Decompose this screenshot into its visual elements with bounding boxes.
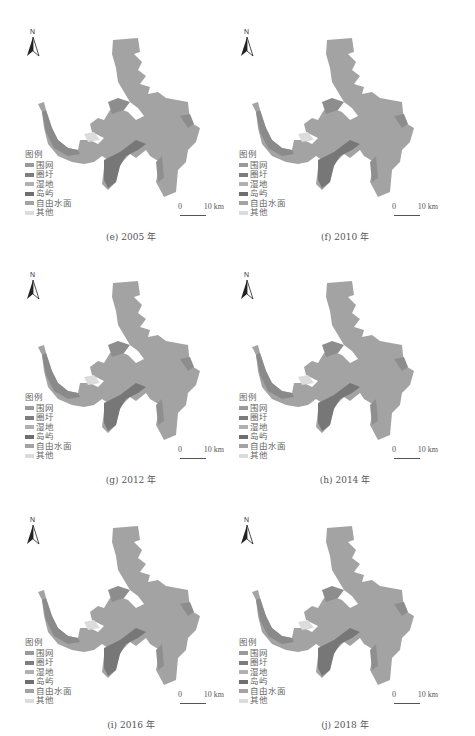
legend-label: 其他 [36,208,54,218]
panel-caption: (g) 2012 年 [20,473,242,486]
legend-swatch [239,435,248,439]
scale-bar: 0 10 km [392,202,452,216]
scale-line [394,215,420,216]
legend-item: 其他 [25,451,72,461]
north-label: N [30,271,35,278]
panel-caption: (f) 2010 年 [234,230,456,243]
legend-swatch [239,192,248,196]
scale-line [180,703,206,704]
legend-swatch [239,201,248,205]
legend-item: 其他 [25,696,72,706]
legend-swatch [25,651,34,655]
legend-swatch [25,182,34,186]
legend-swatch [25,173,34,177]
legend-title: 图例 [239,393,286,403]
north-label: N [244,516,249,523]
legend-item: 其他 [239,451,286,461]
legend-title: 图例 [239,150,286,160]
legend-item: 其他 [25,208,72,218]
legend-swatch [25,211,34,215]
panel-caption: (h) 2014 年 [234,473,456,486]
map-panel-2005: N 图例 围网 圈圩 湿地 岛屿 自由水面 其他 [20,4,242,246]
legend-swatch [25,435,34,439]
legend: 图例 围网 圈圩 湿地 岛屿 自由水面 其他 [25,638,72,706]
scale-zero: 0 [392,202,396,211]
legend-swatch [239,211,248,215]
scale-line [180,215,206,216]
legend-swatch [239,416,248,420]
legend-swatch [25,406,34,410]
map-panel-2014: N 图例 围网 圈圩 湿地 岛屿 自由水面 其他 [234,247,456,489]
scale-bar: 0 10 km [178,445,238,459]
scale-bar: 0 10 km [392,445,452,459]
scale-zero: 0 [392,445,396,454]
legend: 图例 围网 圈圩 湿地 岛屿 自由水面 其他 [25,150,72,218]
legend-label: 其他 [250,451,268,461]
legend-swatch [25,192,34,196]
legend-swatch [239,444,248,448]
legend-swatch [239,454,248,458]
panel-caption: (i) 2016 年 [20,718,242,731]
legend-title: 图例 [25,638,72,648]
legend-swatch [239,699,248,703]
legend-swatch [239,689,248,693]
scale-bar: 0 10 km [178,690,238,704]
legend-swatch [25,670,34,674]
legend-title: 图例 [239,638,286,648]
legend-item: 其他 [239,696,286,706]
legend-swatch [239,680,248,684]
legend-swatch [25,680,34,684]
map-panel-2018: N 图例 围网 圈圩 湿地 岛屿 自由水面 其他 [234,492,456,734]
legend-swatch [25,163,34,167]
scale-bar: 0 10 km [392,690,452,704]
legend-swatch [25,661,34,665]
legend-swatch [239,173,248,177]
legend-title: 图例 [25,150,72,160]
legend-title: 图例 [25,393,72,403]
scale-line [394,703,420,704]
map-panel-2010: N 图例 围网 圈圩 湿地 岛屿 自由水面 其他 [234,4,456,246]
legend-label: 其他 [36,451,54,461]
scale-zero: 0 [392,690,396,699]
legend-swatch [25,444,34,448]
north-label: N [244,28,249,35]
scale-line [394,458,420,459]
scale-distance: 10 km [418,202,438,211]
legend-swatch [25,699,34,703]
scale-distance: 10 km [418,445,438,454]
legend-swatch [239,406,248,410]
scale-zero: 0 [178,202,182,211]
legend-swatch [239,651,248,655]
legend: 图例 围网 圈圩 湿地 岛屿 自由水面 其他 [25,393,72,461]
scale-distance: 10 km [204,445,224,454]
scale-distance: 10 km [204,202,224,211]
scale-zero: 0 [178,445,182,454]
legend-item: 其他 [239,208,286,218]
legend-swatch [239,163,248,167]
north-label: N [30,516,35,523]
legend: 图例 围网 圈圩 湿地 岛屿 自由水面 其他 [239,150,286,218]
legend-swatch [25,689,34,693]
legend-label: 其他 [250,696,268,706]
north-label: N [244,271,249,278]
legend-swatch [25,425,34,429]
panel-caption: (j) 2018 年 [234,718,456,731]
legend-label: 其他 [36,696,54,706]
scale-line [180,458,206,459]
scale-distance: 10 km [204,690,224,699]
scale-bar: 0 10 km [178,202,238,216]
legend-swatch [25,201,34,205]
legend-swatch [25,454,34,458]
legend-swatch [239,661,248,665]
scale-distance: 10 km [418,690,438,699]
panel-caption: (e) 2005 年 [20,230,242,243]
legend: 图例 围网 圈圩 湿地 岛屿 自由水面 其他 [239,638,286,706]
map-panel-2016: N 图例 围网 圈圩 湿地 岛屿 自由水面 其他 [20,492,242,734]
scale-zero: 0 [178,690,182,699]
north-label: N [30,28,35,35]
legend: 图例 围网 圈圩 湿地 岛屿 自由水面 其他 [239,393,286,461]
legend-swatch [239,670,248,674]
legend-swatch [239,425,248,429]
legend-swatch [25,416,34,420]
legend-swatch [239,182,248,186]
